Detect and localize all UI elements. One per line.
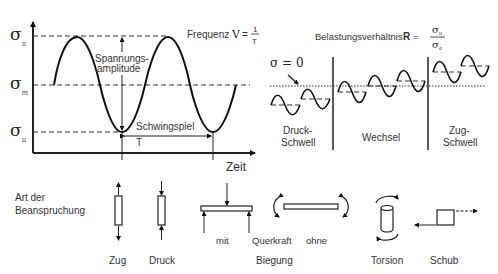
svg-text:Belastungsverhältnis: Belastungsverhältnis bbox=[315, 31, 403, 42]
shear-label: Schub bbox=[430, 255, 459, 266]
svg-text:σ: σ bbox=[10, 24, 22, 44]
svg-text:σ: σ bbox=[432, 39, 439, 50]
compressive-pulsating-label-2: Schwell bbox=[281, 137, 315, 148]
fatigue-loading-diagram: σ o σ m σ u Spannungs- amplitude Schwing… bbox=[0, 0, 498, 274]
load-ratio-formula: Belastungsverhältnis R = σ u σ o bbox=[315, 24, 445, 51]
pure-bending-icon bbox=[274, 197, 349, 217]
period-label: T bbox=[136, 137, 142, 148]
tensile-pulsating-label-1: Zug- bbox=[449, 125, 470, 136]
svg-text:m: m bbox=[22, 89, 28, 96]
cycle-label: Schwingspiel bbox=[136, 121, 194, 132]
sigma-lower-label: σ u bbox=[10, 120, 26, 143]
svg-text:σ: σ bbox=[10, 73, 22, 93]
sigma-mean-label: σ m bbox=[10, 73, 28, 96]
amplitude-label-2: amplitude bbox=[97, 63, 141, 74]
svg-text:=: = bbox=[242, 29, 248, 40]
svg-text:V: V bbox=[231, 28, 241, 41]
compressive-pulsating-label-1: Druck- bbox=[283, 125, 312, 136]
svg-text:T: T bbox=[252, 37, 257, 46]
frequency-formula: Frequenz V = 1 T bbox=[187, 25, 259, 46]
bending-label: Biegung bbox=[256, 255, 293, 266]
loading-types-row: Art der Beanspruchung Zug Druck mit Quer… bbox=[15, 181, 477, 266]
stress-types-panel: σ = 0 Druck- Schwell Wechsel Zug- bbox=[270, 56, 489, 151]
alternating-label: Wechsel bbox=[362, 132, 400, 143]
svg-text:Frequenz: Frequenz bbox=[187, 29, 229, 40]
bending-with-shear-icon bbox=[201, 183, 252, 233]
compression-icon bbox=[158, 181, 165, 240]
zero-stress-label: σ = 0 bbox=[270, 56, 304, 70]
svg-text:o: o bbox=[22, 40, 26, 47]
torsion-label: Torsion bbox=[371, 255, 403, 266]
zero-arrow bbox=[288, 75, 298, 84]
tensile-pulsating-label-2: Schwell bbox=[443, 137, 477, 148]
sigma-upper-label: σ o bbox=[10, 24, 26, 47]
svg-text:u: u bbox=[439, 30, 442, 36]
shear-force-label: Querkraft bbox=[252, 235, 292, 246]
tensile-pulsating-waves bbox=[433, 56, 489, 83]
svg-text:=: = bbox=[413, 32, 418, 42]
compression-label: Druck bbox=[149, 255, 176, 266]
without-label: ohne bbox=[306, 235, 327, 246]
shear-icon bbox=[415, 210, 477, 225]
svg-text:R: R bbox=[403, 31, 411, 42]
svg-text:o: o bbox=[439, 45, 442, 51]
stress-time-graph: σ o σ m σ u Spannungs- amplitude Schwing… bbox=[10, 22, 255, 174]
compressive-pulsating-waves bbox=[271, 89, 330, 115]
svg-text:1: 1 bbox=[253, 25, 258, 34]
x-axis-label: Zeit bbox=[226, 160, 247, 174]
torsion-icon bbox=[376, 196, 398, 240]
tension-icon bbox=[115, 183, 122, 240]
svg-text:σ: σ bbox=[10, 120, 22, 140]
tension-label: Zug bbox=[109, 255, 126, 266]
svg-text:σ: σ bbox=[432, 24, 439, 35]
svg-text:u: u bbox=[22, 136, 26, 143]
loading-title-2: Beanspruchung bbox=[15, 205, 85, 216]
with-label: mit bbox=[216, 235, 229, 246]
loading-title-1: Art der bbox=[15, 192, 46, 203]
